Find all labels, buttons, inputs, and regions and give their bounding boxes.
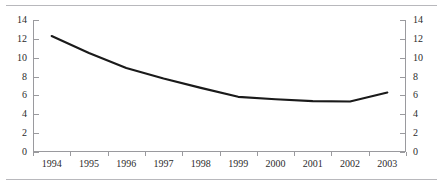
x-tick	[182, 152, 183, 156]
x-tick-label: 2002	[340, 159, 360, 169]
series-line-path	[52, 36, 388, 102]
x-tick	[33, 152, 34, 156]
x-tick	[369, 152, 370, 156]
x-tick-label: 1999	[228, 159, 248, 169]
y-tick-label-right: 4	[413, 109, 418, 119]
x-tick	[331, 152, 332, 156]
y-tick-label-right: 0	[413, 147, 418, 157]
y-tick-label-left: 10	[17, 53, 27, 63]
x-tick	[220, 152, 221, 156]
series-line-chart	[33, 20, 406, 152]
y-tick-label-left: 14	[17, 15, 27, 25]
y-tick-label-left: 0	[22, 147, 27, 157]
y-tick-label-right: 10	[413, 53, 423, 63]
y-tick-label-right: 8	[413, 72, 418, 82]
x-tick	[294, 152, 295, 156]
x-tick	[406, 152, 407, 156]
x-tick-label: 2003	[377, 159, 397, 169]
x-tick-label: 2001	[303, 159, 323, 169]
chart-figure: 02468101214 02468101214 1994199519961997…	[0, 0, 443, 187]
y-tick-label-right: 2	[413, 128, 418, 138]
x-tick	[70, 152, 71, 156]
x-tick-label: 2000	[265, 159, 285, 169]
y-tick-left	[34, 152, 39, 153]
y-tick-label-right: 12	[413, 34, 423, 44]
top-divider-rule	[6, 5, 437, 6]
x-tick	[257, 152, 258, 156]
bottom-divider-rule	[6, 179, 437, 180]
y-tick-right	[400, 152, 405, 153]
x-tick-label: 1995	[79, 159, 99, 169]
x-tick-label: 1994	[42, 159, 62, 169]
y-tick-label-left: 8	[22, 72, 27, 82]
x-tick-label: 1998	[191, 159, 211, 169]
y-tick-label-left: 4	[22, 109, 27, 119]
x-tick	[145, 152, 146, 156]
x-tick	[108, 152, 109, 156]
x-tick-label: 1996	[116, 159, 136, 169]
y-tick-label-right: 14	[413, 15, 423, 25]
x-tick-label: 1997	[154, 159, 174, 169]
y-tick-label-left: 6	[22, 90, 27, 100]
y-tick-label-left: 12	[17, 34, 27, 44]
y-tick-label-left: 2	[22, 128, 27, 138]
y-tick-label-right: 6	[413, 90, 418, 100]
plot-area: 02468101214 02468101214 1994199519961997…	[33, 20, 406, 152]
